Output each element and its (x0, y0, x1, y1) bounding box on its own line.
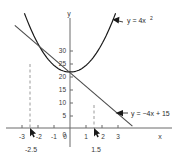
graph-figure: -3 -2 -1 0 1 2 3 x 0 5 10 15 20 25 30 (0, 0, 185, 160)
x-tick-label-neg3: -3 (19, 133, 25, 140)
root-marker-neg2-5: -2.5 (25, 128, 37, 153)
x-axis-label: x (158, 133, 162, 140)
line-callout-label: y = −4x + 15 (131, 110, 170, 118)
x-tick-label-2: 2 (101, 133, 105, 140)
coordinate-plane: -3 -2 -1 0 1 2 3 x 0 5 10 15 20 25 30 (0, 0, 185, 160)
x-tick-label-3: 3 (116, 133, 120, 140)
x-tick-label-1: 1 (84, 133, 88, 140)
root-pointer-arrow-1-5 (94, 128, 100, 137)
parabola-callout-label: y = 4x (127, 17, 146, 25)
line-curve (15, 25, 133, 126)
y-tick-label-20: 20 (59, 73, 67, 80)
root-marker-1-5: 1.5 (91, 128, 101, 153)
axes-group (6, 18, 172, 147)
line-callout: y = −4x + 15 (116, 110, 170, 118)
y-tick-label-5: 5 (62, 112, 66, 119)
x-tick-label-neg1: -1 (51, 133, 57, 140)
y-tick-label-15: 15 (59, 86, 67, 93)
y-axis-label: y (67, 10, 71, 18)
y-tick-label-10: 10 (59, 99, 67, 106)
x-tick-label-neg2: -2 (36, 133, 42, 140)
root-label-neg2-5: -2.5 (25, 146, 37, 153)
parabola-callout-exponent: 2 (150, 15, 153, 21)
y-axis-tick-labels: 0 5 10 15 20 25 30 (59, 47, 67, 138)
y-tick-label-0: 0 (62, 131, 66, 138)
root-label-1-5: 1.5 (91, 146, 101, 153)
y-tick-label-30: 30 (59, 47, 67, 54)
parabola-callout: y = 4x 2 (113, 15, 154, 26)
